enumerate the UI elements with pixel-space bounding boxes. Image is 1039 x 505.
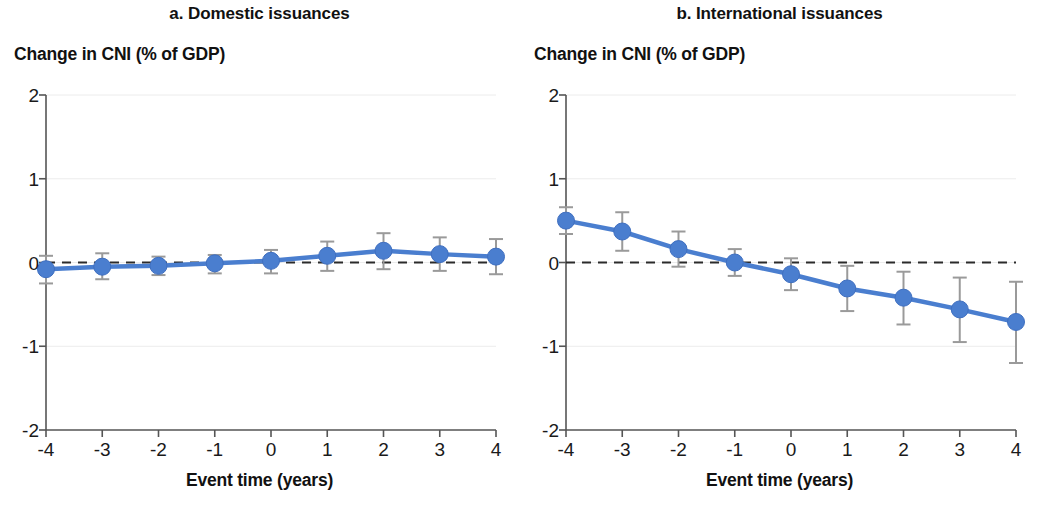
data-point-marker	[726, 254, 743, 271]
data-point-marker	[94, 258, 111, 275]
x-tick-label: 0	[266, 440, 277, 459]
panel-a-title: a. Domestic issuances	[0, 4, 519, 24]
data-point-marker	[1008, 313, 1025, 330]
x-tick-label: 4	[1011, 440, 1022, 459]
data-point-marker	[614, 223, 631, 240]
y-tick-label: -2	[542, 421, 559, 440]
y-tick-label: 1	[548, 169, 559, 188]
data-point-marker	[150, 257, 167, 274]
x-tick-label: -2	[150, 440, 167, 459]
data-point-marker	[263, 252, 280, 269]
x-tick-label: 1	[322, 440, 333, 459]
y-tick-label: 2	[28, 86, 39, 105]
x-tick-label: 1	[842, 440, 853, 459]
x-tick-label: -2	[670, 440, 687, 459]
data-point-marker	[319, 247, 336, 264]
data-point-marker	[783, 266, 800, 283]
data-point-marker	[375, 242, 392, 259]
x-tick-label: 2	[378, 440, 389, 459]
x-tick-label: -3	[94, 440, 111, 459]
data-point-marker	[206, 255, 223, 272]
data-point-marker	[839, 280, 856, 297]
x-tick-label: -3	[614, 440, 631, 459]
panel-b-title: b. International issuances	[520, 4, 1039, 24]
y-tick-label: -1	[542, 337, 559, 356]
x-tick-label: -4	[38, 440, 55, 459]
panel-b-y-axis-label: Change in CNI (% of GDP)	[534, 44, 745, 65]
y-tick-label: 2	[548, 86, 559, 105]
y-tick-label: -1	[22, 337, 39, 356]
y-tick-label: 1	[28, 169, 39, 188]
x-tick-label: -1	[726, 440, 743, 459]
x-tick-label: -1	[206, 440, 223, 459]
data-point-marker	[895, 289, 912, 306]
panel-b-international-issuances: b. International issuances Change in CNI…	[520, 0, 1039, 505]
y-tick-label: 0	[548, 253, 559, 272]
x-tick-label: 3	[434, 440, 445, 459]
panel-a-plot-area: -2-1012-4-3-2-101234	[46, 95, 496, 430]
data-point-marker	[38, 261, 55, 278]
panel-a-y-axis-label: Change in CNI (% of GDP)	[14, 44, 225, 65]
data-point-marker	[488, 248, 505, 265]
data-point-marker	[558, 212, 575, 229]
data-point-marker	[670, 241, 687, 258]
panel-b-x-axis-label: Event time (years)	[520, 470, 1039, 491]
data-point-marker	[951, 301, 968, 318]
panel-b-plot-area: -2-1012-4-3-2-101234	[566, 95, 1016, 430]
y-tick-label: -2	[22, 421, 39, 440]
panel-a-chart-svg	[45, 94, 497, 431]
panel-b-chart-svg	[565, 94, 1017, 431]
x-tick-label: 2	[898, 440, 909, 459]
x-tick-label: -4	[558, 440, 575, 459]
y-tick-label: 0	[28, 253, 39, 272]
x-tick-label: 4	[491, 440, 502, 459]
figure-two-panel-event-study: a. Domestic issuances Change in CNI (% o…	[0, 0, 1039, 505]
x-tick-label: 0	[786, 440, 797, 459]
panel-a-domestic-issuances: a. Domestic issuances Change in CNI (% o…	[0, 0, 519, 505]
x-tick-label: 3	[954, 440, 965, 459]
panel-a-x-axis-label: Event time (years)	[0, 470, 519, 491]
data-point-marker	[431, 246, 448, 263]
